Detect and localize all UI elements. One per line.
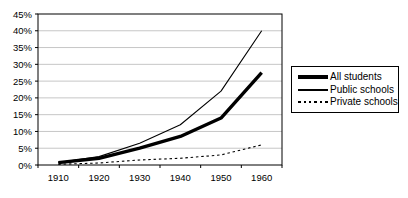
x-axis-label: 1920 (88, 172, 109, 183)
x-axis-label: 1960 (251, 172, 272, 183)
y-axis-label: 30% (13, 59, 33, 70)
legend-item-all-students: All students (298, 72, 396, 82)
y-axis-label: 10% (13, 126, 33, 137)
legend-item-private-schools: Private schools (298, 97, 396, 107)
y-axis-label: 25% (13, 76, 33, 87)
x-axis-label: 1910 (48, 172, 69, 183)
enrollment-line-chart: 0%5%10%15%20%25%30%35%40%45%191019201930… (0, 0, 408, 198)
legend: All students Public schools Private scho… (291, 66, 399, 113)
x-axis-label: 1940 (170, 172, 191, 183)
y-axis-label: 20% (13, 92, 33, 103)
x-axis-label: 1930 (129, 172, 150, 183)
y-axis-label: 45% (13, 9, 33, 20)
thick-line-swatch-icon (298, 75, 328, 79)
x-axis-label: 1950 (210, 172, 231, 183)
legend-item-public-schools: Public schools (298, 85, 396, 95)
legend-label-public-schools: Public schools (330, 85, 394, 95)
thin-line-swatch-icon (298, 89, 328, 91)
y-axis-label: 35% (13, 42, 33, 53)
dashed-line-swatch-icon (298, 101, 328, 103)
series-line-all-students (58, 73, 261, 163)
legend-label-private-schools: Private schools (330, 97, 398, 107)
y-axis-label: 40% (13, 25, 33, 36)
legend-label-all-students: All students (330, 72, 382, 82)
y-axis-label: 5% (18, 143, 32, 154)
y-axis-label: 15% (13, 109, 33, 120)
y-axis-label: 0% (18, 160, 32, 171)
